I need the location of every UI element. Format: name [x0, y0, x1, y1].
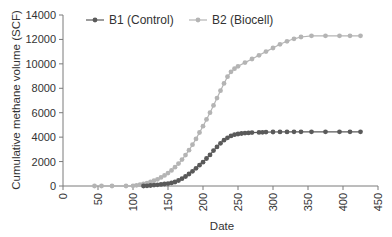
data-point: [309, 33, 314, 38]
data-point: [271, 46, 276, 51]
methane-volume-chart: Cumulative methane volume (SCF) Date 020…: [0, 0, 392, 237]
legend-item-0: B1 (Control): [86, 13, 174, 27]
data-point: [222, 81, 227, 86]
data-point: [225, 74, 230, 79]
y-tick-label: 12000: [25, 33, 56, 45]
data-point: [299, 35, 304, 40]
data-point: [271, 130, 276, 135]
legend-item-1: B2 (Biocell): [189, 13, 273, 27]
x-tick-label: 450: [372, 193, 384, 211]
data-point: [173, 165, 178, 170]
data-point: [211, 103, 216, 108]
data-point: [264, 49, 269, 54]
data-point: [201, 124, 206, 129]
x-axis-title: Date: [210, 220, 234, 232]
data-point: [309, 129, 314, 134]
data-point: [180, 157, 185, 162]
data-point: [250, 57, 255, 62]
y-tick-label: 0: [50, 180, 56, 192]
data-point: [215, 96, 220, 101]
data-point: [92, 184, 97, 189]
series-0: [141, 129, 363, 188]
data-point: [285, 39, 290, 44]
x-tick-label: 150: [162, 193, 174, 211]
data-point: [323, 129, 328, 134]
data-point: [124, 184, 129, 189]
data-point: [292, 129, 297, 134]
series-line: [95, 36, 361, 186]
axes: 0200040006000800010000120001400005010015…: [25, 9, 384, 211]
data-point: [218, 88, 223, 93]
data-point: [194, 137, 199, 142]
data-point: [183, 153, 188, 158]
data-point: [208, 153, 213, 158]
x-tick-label: 300: [267, 193, 279, 211]
series-line: [144, 132, 361, 186]
y-axis-title: Cumulative methane volume (SCF): [10, 10, 22, 190]
y-tick-label: 14000: [25, 9, 56, 21]
legend-label: B2 (Biocell): [212, 13, 273, 27]
data-point: [348, 129, 353, 134]
data-point: [110, 184, 115, 189]
data-point: [348, 33, 353, 38]
data-point: [236, 64, 241, 69]
x-tick-label: 350: [302, 193, 314, 211]
data-point: [278, 130, 283, 135]
data-point: [215, 145, 220, 150]
legend-label: B1 (Control): [109, 13, 174, 27]
data-point: [358, 33, 363, 38]
data-point: [257, 53, 262, 58]
y-tick-label: 6000: [32, 107, 56, 119]
data-point: [243, 60, 248, 65]
y-tick-label: 10000: [25, 58, 56, 70]
data-point: [187, 148, 192, 153]
data-point: [250, 130, 255, 135]
data-point: [204, 156, 209, 161]
data-point: [337, 33, 342, 38]
data-point: [323, 33, 328, 38]
data-series: [92, 33, 363, 188]
data-point: [208, 110, 213, 115]
data-point: [358, 129, 363, 134]
x-tick-label: 50: [92, 193, 104, 205]
series-1: [92, 33, 363, 188]
data-point: [204, 117, 209, 122]
data-point: [264, 130, 269, 135]
y-tick-label: 8000: [32, 82, 56, 94]
y-tick-label: 2000: [32, 156, 56, 168]
legend: B1 (Control)B2 (Biocell): [86, 13, 273, 27]
legend-marker-icon: [196, 18, 201, 23]
legend-marker-icon: [93, 18, 98, 23]
data-point: [285, 130, 290, 135]
data-point: [337, 129, 342, 134]
x-tick-label: 100: [127, 193, 139, 211]
data-point: [176, 161, 181, 166]
data-point: [197, 130, 202, 135]
data-point: [292, 36, 297, 41]
data-point: [201, 160, 206, 165]
data-point: [99, 184, 104, 189]
x-tick-label: 200: [197, 193, 209, 211]
x-tick-label: 400: [337, 193, 349, 211]
data-point: [190, 142, 195, 147]
y-tick-label: 4000: [32, 131, 56, 143]
x-tick-label: 250: [232, 193, 244, 211]
x-tick-label: 0: [57, 193, 69, 199]
data-point: [211, 148, 216, 153]
data-point: [278, 42, 283, 47]
data-point: [299, 129, 304, 134]
